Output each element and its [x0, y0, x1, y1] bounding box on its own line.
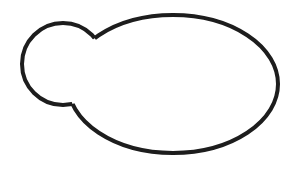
shape-drawing — [0, 0, 294, 170]
small-circle — [22, 23, 104, 105]
figure-canvas — [0, 0, 294, 170]
